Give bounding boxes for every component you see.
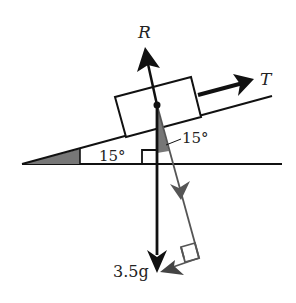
force-diagram: R T 15° 15° 3.5g — [0, 0, 296, 303]
label-incline-angle: 15° — [99, 147, 126, 165]
perpendicular-component-line — [157, 105, 199, 258]
parallel-component-arrowhead-icon — [160, 260, 184, 275]
label-T: T — [260, 69, 273, 89]
label-R: R — [137, 22, 151, 42]
label-component-angle: 15° — [182, 129, 209, 147]
diagram-canvas: R T 15° 15° 3.5g — [0, 0, 296, 303]
right-angle-marker-ground — [142, 150, 157, 164]
angle-leader-line — [166, 139, 181, 145]
label-weight: 3.5g — [113, 262, 149, 281]
right-angle-box-bottom — [181, 243, 199, 258]
tension-rope — [198, 83, 243, 95]
component-mid-arrowhead-icon — [170, 181, 190, 200]
block-center-dot — [154, 102, 161, 109]
